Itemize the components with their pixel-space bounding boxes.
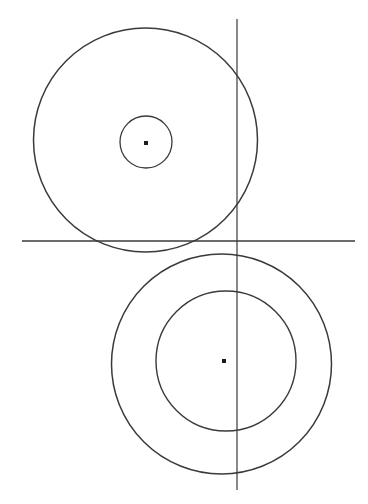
upper-center-point — [144, 141, 148, 145]
figure-container — [0, 0, 368, 504]
canvas-background — [0, 0, 368, 504]
geometry-diagram — [0, 0, 368, 504]
lower-center-point — [222, 359, 226, 363]
